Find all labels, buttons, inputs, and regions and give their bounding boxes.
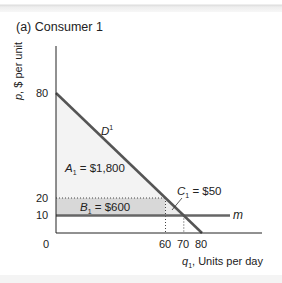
y-tick-80: 80 (36, 87, 48, 99)
x-tick-80: 80 (195, 238, 207, 250)
bottom-border (0, 275, 282, 283)
y-axis-label: p, $ per unit (12, 42, 24, 101)
mc-label: m (233, 208, 243, 222)
y-tick-20: 20 (36, 192, 48, 204)
x-tick-60: 60 (159, 238, 171, 250)
x-tick-70: 70 (177, 238, 189, 250)
b1-label: B1 = $600 (80, 201, 130, 215)
y-tick-10: 10 (36, 209, 48, 221)
c1-label: C1 = $50 (177, 185, 222, 199)
demand-label: D1 (101, 124, 113, 137)
chart: 80 20 10 0 60 70 80 p, $ per unit q1, Un… (0, 0, 282, 283)
x-axis-label: q1, Units per day (182, 255, 263, 269)
y-tick-0: 0 (43, 238, 49, 250)
